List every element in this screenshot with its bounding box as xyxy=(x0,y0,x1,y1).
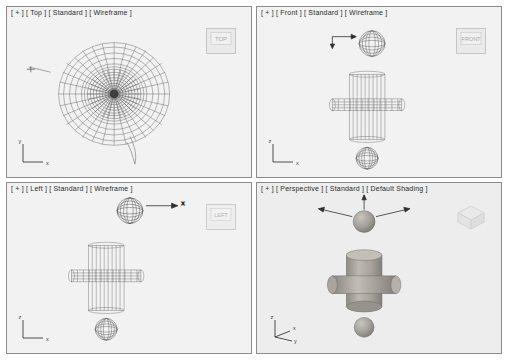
viewport-top-label[interactable]: [ + ] [ Top ] [ Standard ] [ Wireframe ] xyxy=(11,9,132,16)
viewport-left-label[interactable]: [ + ] [ Left ] [ Standard ] [ Wireframe … xyxy=(11,185,133,192)
svg-text:x: x xyxy=(182,200,185,206)
application-window: [ + ] [ Top ] [ Standard ] [ Wireframe ] xyxy=(0,0,508,363)
axis-tripod-front: z x xyxy=(267,135,307,169)
svg-text:LEFT: LEFT xyxy=(214,212,228,218)
viewport-front-label[interactable]: [ + ] [ Front ] [ Standard ] [ Wireframe… xyxy=(261,9,387,16)
viewport-perspective[interactable]: [ + ] [ Perspective ] [ Standard ] [ Def… xyxy=(256,182,502,354)
viewport-front[interactable]: [ + ] [ Front ] [ Standard ] [ Wireframe… xyxy=(256,6,502,178)
svg-text:x: x xyxy=(293,325,296,331)
viewport-left[interactable]: [ + ] [ Left ] [ Standard ] [ Wireframe … xyxy=(6,182,252,354)
svg-text:FRONT: FRONT xyxy=(462,36,482,42)
svg-text:TOP: TOP xyxy=(215,36,227,42)
axis-tripod-left: z x xyxy=(17,311,57,345)
axis-tripod-top: y x xyxy=(17,135,57,169)
svg-text:x: x xyxy=(296,160,299,166)
viewcube-left[interactable]: LEFT xyxy=(203,199,239,235)
svg-text:z: z xyxy=(271,314,274,320)
viewport-perspective-label[interactable]: [ + ] [ Perspective ] [ Standard ] [ Def… xyxy=(261,185,428,192)
svg-text:x: x xyxy=(46,336,49,342)
svg-text:z: z xyxy=(19,314,22,320)
svg-text:z: z xyxy=(269,138,272,144)
svg-text:y: y xyxy=(19,138,22,144)
axis-tripod-perspective: z y x xyxy=(267,311,307,345)
viewport-top[interactable]: [ + ] [ Top ] [ Standard ] [ Wireframe ] xyxy=(6,6,252,178)
viewcube-perspective[interactable] xyxy=(453,199,489,235)
svg-text:x: x xyxy=(46,160,49,166)
viewcube-front[interactable]: FRONT xyxy=(453,23,489,59)
svg-text:y: y xyxy=(294,338,297,344)
viewcube-top[interactable]: TOP xyxy=(203,23,239,59)
